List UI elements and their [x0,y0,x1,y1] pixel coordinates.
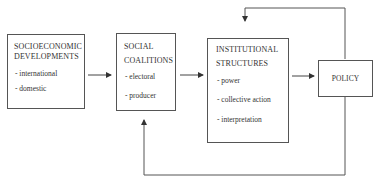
node-item-international: - international [15,69,57,78]
node-institutional-structures: INSTITUTIONAL STRUCTURES - power - colle… [207,38,289,143]
node-socioeconomic-developments: SOCIOECONOMIC DEVELOPMENTS - internation… [7,34,85,109]
node-item-interpretation: - interpretation [217,115,262,124]
node-title: POLICY [319,74,372,84]
node-item-domestic: - domestic [15,84,46,93]
node-title: SOCIOECONOMIC DEVELOPMENTS [14,42,82,62]
node-item-collective-action: - collective action [217,95,271,104]
node-item-producer: - producer [125,91,156,100]
node-item-power: - power [217,76,240,85]
node-title: INSTITUTIONAL STRUCTURES [216,43,278,71]
node-policy: POLICY [318,60,373,97]
node-item-electoral: - electoral [125,72,155,81]
node-social-coalitions: SOCIAL COALITIONS - electoral - producer [116,33,176,111]
node-title: SOCIAL COALITIONS [124,40,173,68]
